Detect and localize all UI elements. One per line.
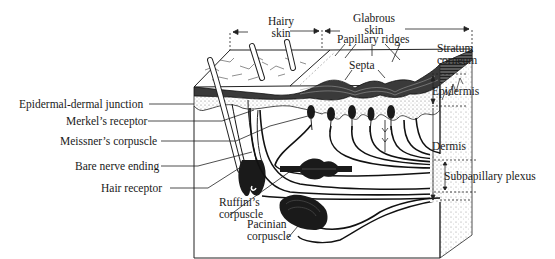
label-papillary-ridges: Papillary ridges [337,33,410,45]
label-merkels-receptor: Merkel’s receptor [66,115,147,127]
label-septa: Septa [349,59,375,71]
label-subpapillary-plexus: Subpapillary plexus [444,170,536,182]
label-stratum-line1: Stratum [437,42,477,54]
label-bare-nerve-ending: Bare nerve ending [75,160,159,172]
label-stratum-corneum: Stratum corneum [437,42,477,66]
label-hairy-skin: Hairy skin [256,15,306,39]
label-hairy-line1: Hairy [256,15,306,27]
label-dermis: Dermis [432,140,466,152]
hair-receptor-bulb [238,100,265,196]
label-pacinian-corpuscle: Pacinian corpuscle [247,218,291,242]
label-ruffini-line1: Ruffini’s [219,196,263,208]
label-epidermis: Epidermis [432,85,479,97]
label-pacinian-line1: Pacinian [247,218,291,230]
label-stratum-line2: corneum [437,54,477,66]
label-epidermal-dermal-junction: Epidermal-dermal junction [19,98,143,110]
label-hairy-line2: skin [256,27,306,39]
skin-diagram: Hairy skin Glabrous skin Papillary ridge… [0,0,555,259]
label-hair-receptor: Hair receptor [101,182,162,194]
label-pacinian-line2: corpuscle [247,230,291,242]
label-glabrous-line1: Glabrous [344,12,404,24]
label-meissners-corpuscle: Meissner’s corpuscle [60,135,157,147]
label-ruffini-corpuscle: Ruffini’s corpuscle [219,196,263,220]
